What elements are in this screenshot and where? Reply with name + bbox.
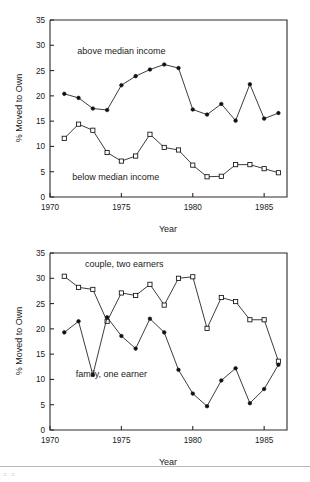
data-point	[148, 317, 152, 321]
y-tick-label: 10	[36, 142, 46, 151]
data-point	[120, 83, 124, 87]
y-tick-label: 20	[36, 325, 46, 334]
data-point	[134, 347, 138, 351]
y-axis-title-top: % Moved to Own	[14, 74, 24, 143]
figure-container: 051015202530351970197519801985 Year % Mo…	[0, 0, 310, 482]
data-point	[134, 293, 138, 297]
y-tick-label: 5	[40, 168, 45, 177]
data-point	[91, 107, 95, 111]
data-point	[277, 111, 281, 115]
data-point	[205, 326, 209, 330]
data-point	[248, 318, 252, 322]
chart-svg-bottom: 051015202530351970197519801985 Year % Mo…	[0, 240, 310, 472]
series-label-above-median-income: above median income	[77, 46, 165, 56]
series-line-1	[64, 317, 278, 406]
y-tick-label: 35	[36, 249, 46, 258]
x-tick-label: 1970	[41, 436, 60, 445]
data-point	[191, 108, 195, 112]
data-point	[219, 174, 223, 178]
data-point	[77, 96, 81, 100]
data-point	[105, 315, 109, 319]
series-line-0	[64, 276, 278, 361]
footer-divider	[0, 466, 310, 467]
data-point	[62, 331, 66, 335]
y-tick-label: 15	[36, 350, 46, 359]
data-point	[276, 171, 280, 175]
data-point	[148, 68, 152, 72]
footer-artifact-text: = =	[3, 471, 16, 478]
x-axis-title-top: Year	[159, 224, 177, 234]
data-point	[248, 82, 252, 86]
y-tick-label: 5	[40, 401, 45, 410]
data-point	[91, 287, 95, 291]
x-tick-label: 1980	[184, 436, 203, 445]
data-point	[191, 392, 195, 396]
data-point	[262, 167, 266, 171]
series-line-1	[64, 124, 278, 177]
x-tick-label: 1975	[112, 436, 131, 445]
data-point	[205, 113, 209, 117]
data-point	[262, 117, 266, 121]
data-point	[148, 132, 152, 136]
data-point	[234, 119, 238, 123]
data-point	[62, 274, 66, 278]
data-point	[148, 282, 152, 286]
data-point	[162, 331, 166, 335]
data-point	[162, 303, 166, 307]
data-point	[177, 66, 181, 70]
data-point	[191, 163, 195, 167]
chart-panel-bottom: 051015202530351970197519801985 Year % Mo…	[0, 240, 310, 472]
data-point	[262, 387, 266, 391]
data-point	[234, 299, 238, 303]
data-point	[105, 108, 109, 112]
data-point	[277, 363, 281, 367]
data-point	[134, 154, 138, 158]
series-group-bottom	[62, 274, 280, 408]
series-label-below-median-income: below median income	[72, 172, 159, 182]
data-point	[91, 128, 95, 132]
data-point	[220, 379, 224, 383]
data-point	[176, 276, 180, 280]
data-point	[205, 175, 209, 179]
data-point	[191, 275, 195, 279]
data-point	[76, 285, 80, 289]
data-point	[248, 401, 252, 405]
data-point	[205, 404, 209, 408]
y-tick-label: 0	[40, 193, 45, 202]
y-tick-label: 15	[36, 117, 46, 126]
series-label-family-one-earner: family, one earner	[76, 369, 147, 379]
y-tick-label: 25	[36, 67, 46, 76]
data-point	[76, 122, 80, 126]
data-point	[62, 92, 66, 96]
series-line-0	[64, 65, 278, 121]
data-point	[120, 334, 124, 338]
data-point	[219, 295, 223, 299]
data-point	[162, 63, 166, 67]
y-tick-label: 10	[36, 375, 46, 384]
data-point	[248, 163, 252, 167]
chart-panel-top: 051015202530351970197519801985 Year % Mo…	[0, 0, 310, 240]
y-tick-label: 30	[36, 274, 46, 283]
y-tick-label: 30	[36, 41, 46, 50]
y-tick-label: 25	[36, 300, 46, 309]
data-point	[119, 291, 123, 295]
x-tick-label: 1970	[41, 203, 60, 212]
series-group-top	[62, 63, 280, 179]
y-tick-label: 0	[40, 426, 45, 435]
data-point	[134, 74, 138, 78]
data-point	[262, 318, 266, 322]
chart-svg-top: 051015202530351970197519801985 Year % Mo…	[0, 0, 310, 240]
data-point	[177, 368, 181, 372]
data-point	[77, 319, 81, 323]
data-point	[62, 136, 66, 140]
x-tick-label: 1985	[255, 436, 274, 445]
tick-group-bottom	[50, 253, 264, 430]
data-point	[162, 145, 166, 149]
x-tick-label: 1985	[255, 203, 274, 212]
series-label-couple-two-earners: couple, two earners	[85, 259, 164, 269]
data-point	[119, 159, 123, 163]
y-tick-label: 35	[36, 16, 46, 25]
data-point	[220, 102, 224, 106]
y-axis-title-bottom: % Moved to Own	[14, 307, 24, 376]
ticklabel-group-bottom: 051015202530351970197519801985	[36, 249, 274, 445]
